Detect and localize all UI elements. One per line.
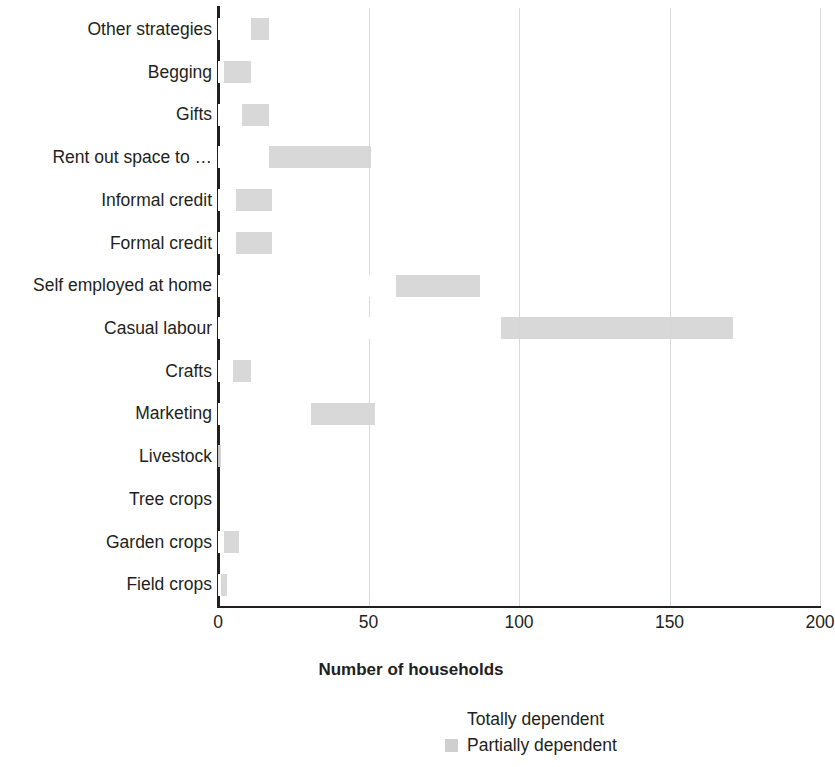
bar-row (218, 478, 820, 521)
x-tick-label: 100 (504, 612, 533, 633)
x-axis-title: Number of households (0, 660, 822, 680)
bar-segment (218, 445, 221, 467)
bar-row (218, 435, 820, 478)
y-axis-category-labels: Other strategiesBeggingGiftsRent out spa… (0, 8, 212, 606)
bar-segment (218, 146, 269, 168)
x-tick-label: 0 (213, 612, 223, 633)
bar-segment (236, 189, 272, 211)
bar-segment (218, 275, 396, 297)
bar-segment (233, 360, 251, 382)
x-axis-tick-labels: 050100150200 (218, 612, 820, 638)
bar-row (218, 563, 820, 606)
bar-segment (218, 18, 251, 40)
bar-row (218, 51, 820, 94)
bar-segment (251, 18, 269, 40)
bar-row (218, 521, 820, 564)
category-label: Begging (0, 51, 212, 94)
bar-row (218, 307, 820, 350)
bar-segment (224, 531, 239, 553)
bar-segment (224, 61, 251, 83)
bar-row (218, 179, 820, 222)
bar-segment (501, 317, 733, 339)
legend-label: Totally dependent (467, 709, 604, 730)
category-label: Informal credit (0, 179, 212, 222)
bar-segment (396, 275, 480, 297)
category-label: Livestock (0, 435, 212, 478)
bar-segment (218, 189, 236, 211)
legend-swatch-icon (445, 713, 458, 726)
x-tick-label: 50 (359, 612, 378, 633)
x-tick-label: 200 (805, 612, 834, 633)
bar-segment (218, 104, 242, 126)
bar-segment (269, 146, 371, 168)
bar-row (218, 93, 820, 136)
x-tick-label: 150 (655, 612, 684, 633)
bar-row (218, 264, 820, 307)
gridline (820, 8, 821, 606)
legend-item: Totally dependent (445, 706, 822, 732)
chart-legend: Totally dependentPartially dependent (0, 706, 822, 758)
category-label: Other strategies (0, 8, 212, 51)
bar-row (218, 222, 820, 265)
category-label: Garden crops (0, 521, 212, 564)
bar-segment (221, 574, 227, 596)
legend-swatch-icon (445, 739, 458, 752)
category-label: Casual labour (0, 307, 212, 350)
bar-segment (242, 104, 269, 126)
category-label: Field crops (0, 563, 212, 606)
bar-segment (218, 360, 233, 382)
x-axis-line (217, 606, 821, 608)
legend-item: Partially dependent (445, 732, 822, 758)
bar-segment (218, 232, 236, 254)
category-label: Formal credit (0, 222, 212, 265)
bar-row (218, 8, 820, 51)
bar-row (218, 136, 820, 179)
bar-segment (218, 403, 311, 425)
bar-segment (218, 317, 501, 339)
bar-segment (236, 232, 272, 254)
bar-segment (311, 403, 374, 425)
legend-label: Partially dependent (467, 735, 617, 756)
category-label: Tree crops (0, 478, 212, 521)
category-label: Self employed at home (0, 264, 212, 307)
category-label: Marketing (0, 392, 212, 435)
category-label: Gifts (0, 93, 212, 136)
category-label: Rent out space to … (0, 136, 212, 179)
bar-row (218, 392, 820, 435)
bar-row (218, 350, 820, 393)
plot-area (218, 8, 820, 606)
category-label: Crafts (0, 350, 212, 393)
